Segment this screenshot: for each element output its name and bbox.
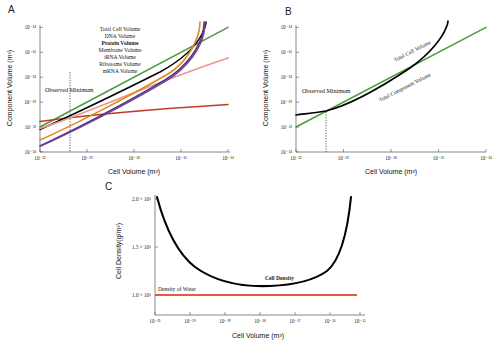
panel-c-y-ticks: 2.0 × 10⁶ 1.5 × 10⁶ 1.0 × 10⁶ bbox=[132, 196, 158, 298]
panel-c-label-density-of-water: Density of Water bbox=[158, 286, 196, 292]
panel-a-legend-item-6: mRNA Volume bbox=[103, 68, 138, 74]
panel-c-curve-cell-density bbox=[157, 197, 351, 286]
panel-a-legend-item-5: Ribosome Volume bbox=[99, 61, 141, 67]
panel-a-x-ticks: 10⁻²² 10⁻²⁰ 10⁻¹⁸ 10⁻¹⁶ 10⁻¹⁴ bbox=[34, 149, 234, 161]
panel-c-xtick-3: 10⁻¹⁸ bbox=[254, 318, 266, 324]
panel-a-observed-minimum-label: Observed Minimum bbox=[45, 87, 94, 93]
panel-a-xtick-4: 10⁻¹⁴ bbox=[222, 155, 234, 161]
panel-b-label-total-component-volume: Total Component Volume bbox=[378, 71, 432, 103]
panel-a-plot: 10⁻¹⁴ 10⁻¹⁶ 10⁻¹⁸ 10⁻²⁰ 10⁻²² 10⁻²⁴ 10⁻²… bbox=[0, 0, 250, 180]
panel-a-legend-item-4: tRNA Volume bbox=[104, 54, 136, 60]
panel-c-xtick-2: 10⁻¹⁹ bbox=[219, 318, 231, 324]
panel-b-plot: 10⁻¹⁴ 10⁻¹⁶ 10⁻¹⁸ 10⁻²⁰ 10⁻²² 10⁻²⁴ 10⁻²… bbox=[250, 0, 503, 180]
panel-c-letter: C bbox=[105, 181, 112, 192]
panel-b-ytick-5: 10⁻²⁴ bbox=[280, 149, 292, 155]
panel-b-xtick-1: 10⁻²⁰ bbox=[338, 155, 350, 161]
panel-a-legend: Total Cell Volume DNA Volume Protein Vol… bbox=[99, 26, 142, 74]
panel-c-label-cell-density: Cell Density bbox=[265, 275, 294, 281]
panel-a-ytick-2: 10⁻¹⁸ bbox=[24, 74, 36, 80]
panel-c-plot: 2.0 × 10⁶ 1.5 × 10⁶ 1.0 × 10⁶ 10⁻²¹ 10⁻²… bbox=[95, 175, 395, 345]
panel-c-ylabel: Cell Density(g/m³) bbox=[115, 223, 123, 279]
panel-a: A 10⁻¹⁴ 10⁻¹⁶ 10⁻¹⁸ 10⁻²⁰ 10⁻²² 10⁻²⁴ bbox=[0, 0, 250, 180]
panel-b: B 10⁻¹⁴ 10⁻¹⁶ 10⁻¹⁸ 10⁻²⁰ 10⁻²² 10⁻²⁴ 10… bbox=[250, 0, 503, 180]
panel-a-xtick-1: 10⁻²⁰ bbox=[81, 155, 93, 161]
panel-a-legend-item-2: Protein Volume bbox=[101, 40, 139, 46]
panel-a-letter: A bbox=[8, 4, 15, 15]
panel-b-letter: B bbox=[285, 6, 292, 17]
panel-b-ytick-2: 10⁻¹⁸ bbox=[280, 74, 292, 80]
panel-a-xtick-3: 10⁻¹⁶ bbox=[175, 155, 187, 161]
panel-c-ytick-1: 1.5 × 10⁶ bbox=[132, 244, 151, 250]
panel-a-ytick-5: 10⁻²⁴ bbox=[24, 149, 36, 155]
panel-a-legend-item-3: Membrane Volume bbox=[99, 47, 142, 53]
panel-b-xtick-3: 10⁻¹⁶ bbox=[433, 155, 445, 161]
panel-c-xtick-6: 10⁻¹⁵ bbox=[354, 318, 366, 324]
panel-c-xlabel: Cell Volume (m³) bbox=[232, 332, 284, 340]
panel-b-xtick-2: 10⁻¹⁸ bbox=[385, 155, 397, 161]
panel-b-xtick-0: 10⁻²² bbox=[290, 155, 302, 161]
panel-c-x-ticks: 10⁻²¹ 10⁻²⁰ 10⁻¹⁹ 10⁻¹⁸ 10⁻¹⁷ 10⁻¹⁶ 10⁻¹… bbox=[149, 312, 366, 324]
panel-a-ytick-3: 10⁻²⁰ bbox=[24, 99, 36, 105]
panel-b-xtick-4: 10⁻¹⁴ bbox=[480, 155, 492, 161]
panel-b-ytick-4: 10⁻²² bbox=[281, 124, 293, 130]
panel-a-ytick-1: 10⁻¹⁶ bbox=[24, 49, 36, 55]
panel-c-xtick-1: 10⁻²⁰ bbox=[184, 318, 196, 324]
panel-b-ytick-1: 10⁻¹⁶ bbox=[280, 49, 292, 55]
panel-b-observed-minimum-label: Observed Minimum bbox=[302, 88, 351, 94]
panel-b-curve-total-component-volume bbox=[296, 21, 448, 115]
panel-a-legend-item-0: Total Cell Volume bbox=[100, 26, 141, 32]
panel-b-ytick-0: 10⁻¹⁴ bbox=[280, 24, 292, 30]
panel-a-xtick-0: 10⁻²² bbox=[34, 155, 46, 161]
panel-c-ytick-2: 1.0 × 10⁶ bbox=[132, 292, 151, 298]
panel-a-ytick-0: 10⁻¹⁴ bbox=[24, 24, 36, 30]
panel-b-x-ticks: 10⁻²² 10⁻²⁰ 10⁻¹⁸ 10⁻¹⁶ 10⁻¹⁴ bbox=[290, 149, 492, 161]
panel-c-xtick-0: 10⁻²¹ bbox=[149, 318, 161, 324]
panel-a-ytick-4: 10⁻²² bbox=[25, 124, 37, 130]
panel-a-ylabel: Component Volume (m³) bbox=[6, 50, 14, 126]
panel-c-xtick-5: 10⁻¹⁶ bbox=[324, 318, 336, 324]
panel-a-xtick-2: 10⁻¹⁸ bbox=[128, 155, 140, 161]
panel-a-legend-item-1: DNA Volume bbox=[105, 33, 136, 39]
panel-b-ytick-3: 10⁻²⁰ bbox=[280, 99, 292, 105]
panel-b-ylabel: Component Volume (m³) bbox=[262, 50, 270, 126]
panel-c-xtick-4: 10⁻¹⁷ bbox=[289, 318, 301, 324]
panel-c-ytick-0: 2.0 × 10⁶ bbox=[132, 196, 151, 202]
panel-c: C 2.0 × 10⁶ 1.5 × 10⁶ 1.0 × 10⁶ 10⁻²¹ 10… bbox=[95, 175, 395, 345]
